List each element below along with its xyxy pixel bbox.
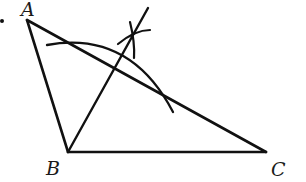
label-a: A [19,0,35,20]
angle-bisector-diagram: A B C [0,0,306,182]
label-b: B [45,157,60,179]
label-c: C [271,158,286,180]
bullet-marker [0,19,4,23]
